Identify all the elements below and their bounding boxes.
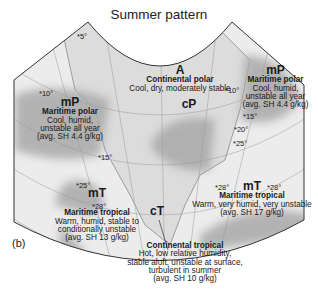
air-mass-mT-pacific: mT Maritime tropical Warm, humid, stable… [42,187,152,243]
air-mass-A: A Continental polar Cool, dry, moderatel… [125,64,235,93]
temp-label: *15° [243,112,257,121]
temp-label: *25° [233,139,247,148]
temp-label: *20° [234,125,248,134]
panel-label: (b) [12,237,25,249]
air-mass-mT-gulf: mT Maritime tropical Warm, very humid, v… [192,180,312,217]
air-mass-cT-code: cT [145,205,169,217]
temp-label: *15° [98,153,112,162]
air-mass-cP: cP [176,98,202,110]
temp-label: *5° [77,32,87,41]
air-mass-cT: Continental tropical Hot, low relative h… [120,242,250,284]
air-mass-mP-atlantic: mP Maritime polar Cool, humid, unstable … [233,64,318,110]
air-mass-mP-pacific: mP Maritime polar Cool, humid, unstable … [20,96,120,142]
